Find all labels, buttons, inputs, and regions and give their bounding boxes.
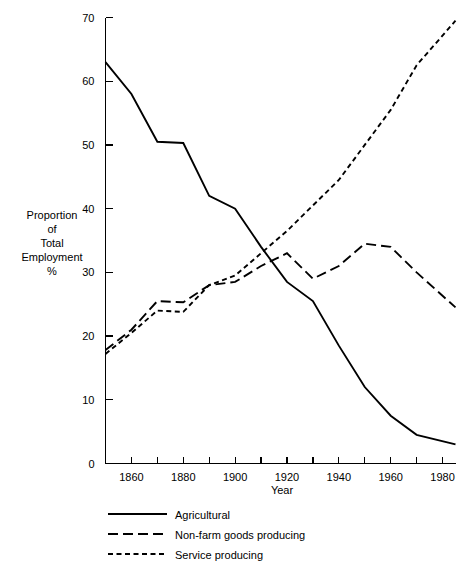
chart-series-group	[106, 21, 456, 445]
x-tick-label: 1880	[171, 471, 195, 483]
y-tick-label: 30	[82, 266, 94, 278]
x-axis-tick-labels: 1860188019001920194019601980	[119, 471, 455, 483]
y-axis-title: ProportionofTotalEmployment%	[21, 209, 82, 277]
chart-legend: AgriculturalNon-farm goods producingServ…	[108, 509, 305, 561]
y-axis-title-line: Total	[40, 237, 63, 249]
y-tick-label: 10	[82, 394, 94, 406]
series-line-agricultural	[106, 62, 456, 444]
y-tick-label: 60	[82, 75, 94, 87]
x-axis-title: Year	[271, 484, 294, 496]
legend-label: Non-farm goods producing	[175, 529, 305, 541]
y-tick-label: 70	[82, 12, 94, 24]
x-tick-label: 1900	[223, 471, 247, 483]
x-tick-label: 1940	[327, 471, 351, 483]
y-tick-label: 40	[82, 203, 94, 215]
y-tick-label: 20	[82, 330, 94, 342]
y-axis-title-line: of	[47, 223, 57, 235]
legend-label: Service producing	[175, 549, 263, 561]
series-line-service-producing	[106, 21, 456, 354]
y-axis-tick-marks	[106, 18, 113, 464]
y-tick-label: 0	[88, 458, 94, 470]
x-tick-label: 1860	[119, 471, 143, 483]
employment-proportion-line-chart: 010203040506070 186018801900192019401960…	[0, 0, 466, 562]
x-axis-tick-marks	[131, 457, 442, 464]
chart-axes	[106, 18, 456, 464]
y-axis-title-line: Proportion	[27, 209, 78, 221]
legend-label: Agricultural	[175, 509, 230, 521]
x-tick-label: 1920	[275, 471, 299, 483]
x-tick-label: 1960	[378, 471, 402, 483]
axis-lines	[106, 18, 456, 464]
chart-figure: 010203040506070 186018801900192019401960…	[0, 0, 466, 562]
y-axis-title-line: Employment	[21, 251, 82, 263]
y-tick-label: 50	[82, 139, 94, 151]
series-line-non-farm-goods-producing	[106, 244, 456, 350]
x-tick-label: 1980	[430, 471, 454, 483]
y-axis-tick-labels: 010203040506070	[82, 12, 94, 470]
y-axis-title-line: %	[47, 265, 57, 277]
